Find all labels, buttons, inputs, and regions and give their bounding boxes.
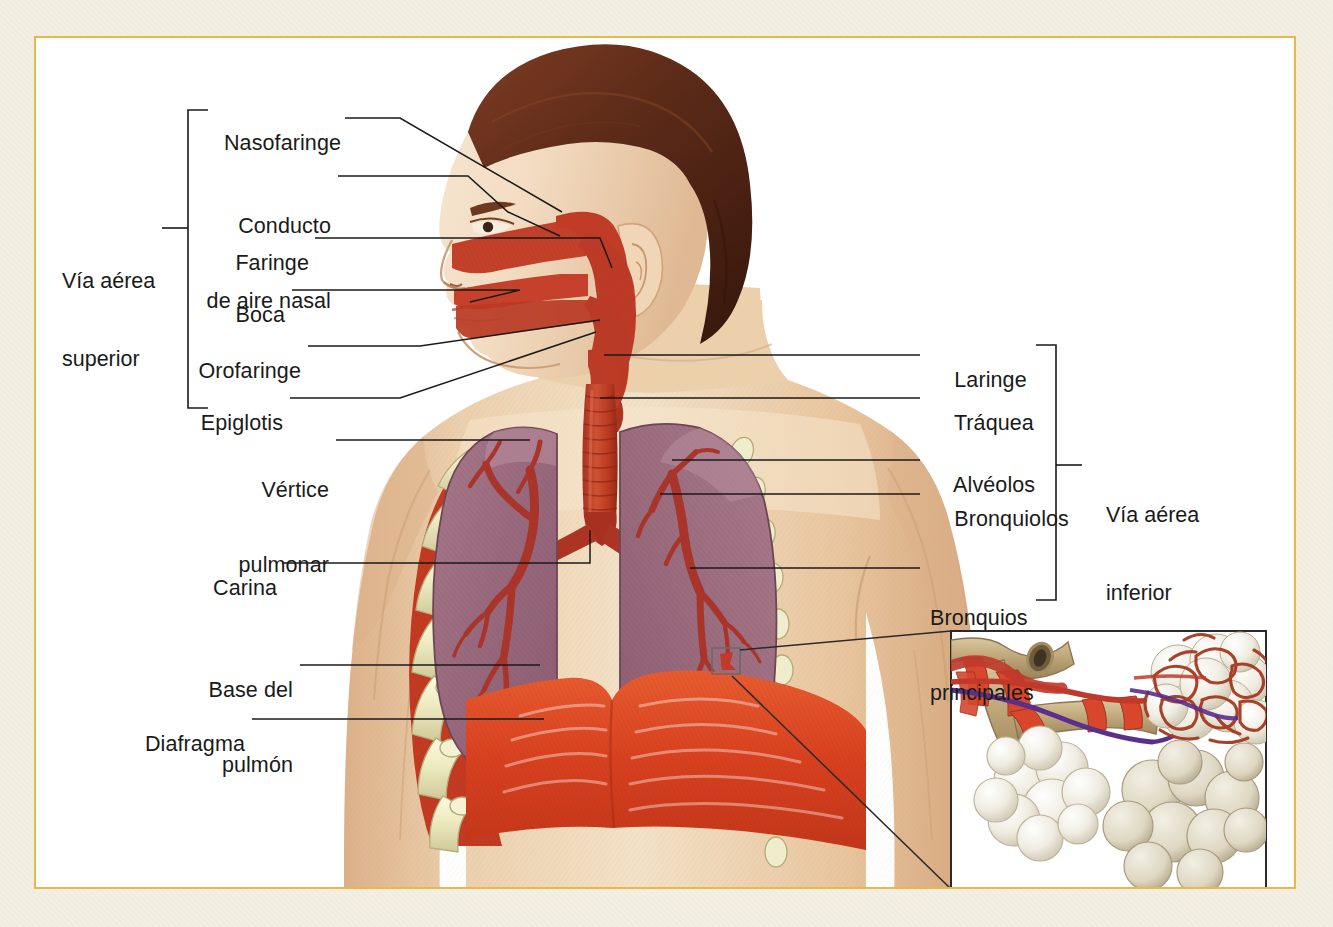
- label-diafragma: Diafragma: [45, 707, 245, 782]
- label-carina: Carina: [45, 551, 277, 626]
- group-label-lower-airway: Vía aérea inferior: [1106, 450, 1199, 658]
- label-bronquiolos: Bronquiolos: [930, 482, 1069, 557]
- bracket-lower-airway: [1036, 345, 1056, 600]
- diaphragm: [466, 671, 866, 850]
- label-bronquios-principales: Bronquios principales: [930, 556, 1034, 756]
- figure-page: Vía aérea superior Vía aérea inferior Na…: [0, 0, 1333, 927]
- human-figure: [344, 44, 985, 905]
- trachea: [582, 384, 617, 518]
